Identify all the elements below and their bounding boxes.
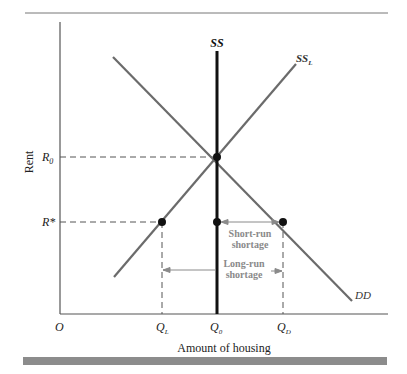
qd-label: QD — [277, 320, 291, 336]
long-run-supply-ssl — [114, 64, 296, 277]
short-run-arrow — [221, 220, 279, 225]
ssl-label: SSL — [296, 52, 313, 67]
q0-point — [213, 218, 221, 226]
long-run-shortage-label: Long-runshortage — [223, 258, 265, 280]
y-axis-title: Rent — [22, 150, 36, 173]
x-axis-title: Amount of housing — [177, 341, 270, 355]
bottom-bar — [23, 357, 387, 365]
origin-label: O — [55, 320, 64, 334]
dd-label: DD — [354, 289, 371, 301]
ss-label: SS — [210, 36, 224, 50]
rstar-label: R* — [41, 215, 55, 229]
rent-control-diagram: SS SSL DD R0 R* Rent O QL Q0 QD Amount o… — [0, 0, 407, 374]
q0-label: Q0 — [210, 320, 223, 336]
r0-label: R0 — [41, 150, 53, 166]
equilibrium-point — [213, 153, 221, 161]
ql-label: QL — [156, 320, 169, 336]
ql-point — [158, 218, 166, 226]
qd-point — [279, 218, 287, 226]
short-run-shortage-label: Short-runshortage — [229, 228, 272, 250]
